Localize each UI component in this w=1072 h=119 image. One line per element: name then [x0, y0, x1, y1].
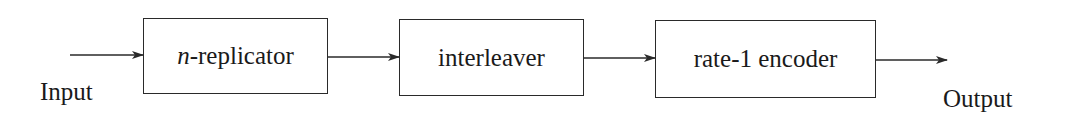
- block-interleaver: interleaver: [399, 19, 584, 96]
- output-label: Output: [943, 85, 1012, 113]
- variable-n: n: [177, 42, 190, 69]
- block-n-replicator: n-replicator: [143, 18, 328, 94]
- block-rate-1-encoder: rate-1 encoder: [655, 20, 876, 98]
- block-n-replicator-label: n-replicator: [177, 42, 294, 70]
- block-rate-1-encoder-label: rate-1 encoder: [694, 45, 838, 73]
- block-interleaver-label: interleaver: [438, 44, 545, 72]
- input-label: Input: [40, 78, 93, 106]
